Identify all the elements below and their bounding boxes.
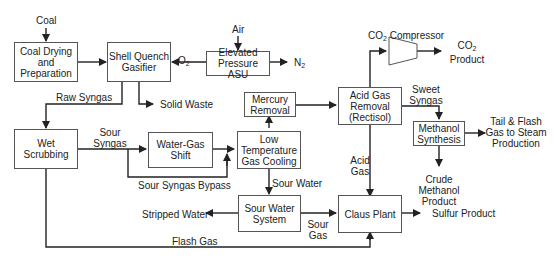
sour-gas-label: Sour Gas xyxy=(306,219,330,241)
bypass-label: Sour Syngas Bypass xyxy=(138,180,231,191)
sulfur-product-label: Sulfur Product xyxy=(432,208,495,219)
n2-label: N2 xyxy=(294,57,305,71)
acid-gas-label: Acid Gas xyxy=(350,155,370,177)
raw-syngas-label: Raw Syngas xyxy=(56,92,112,103)
gasifier-box: Shell Quench Gasifier xyxy=(107,42,171,82)
tail-flash-gas-label: Tail & Flash Gas to Steam Production xyxy=(480,116,552,149)
coal-label: Coal xyxy=(36,15,57,26)
crude-methanol-label: Crude Methanol Product xyxy=(404,174,474,207)
wet-scrubbing-box: Wet Scrubbing xyxy=(14,129,78,169)
sour-water-label: Sour Water xyxy=(272,178,322,189)
water-gas-shift-box: Water-Gas Shift xyxy=(148,132,213,168)
claus-plant-box: Claus Plant xyxy=(338,195,402,233)
air-label: Air xyxy=(232,24,244,35)
co2-product-label: CO2Product xyxy=(448,40,486,65)
o2-label: O2 xyxy=(178,55,190,69)
sour-water-system-box: Sour Water System xyxy=(238,195,301,232)
coal-drying-box: Coal Drying and Preparation xyxy=(14,42,78,82)
mercury-removal-box: Mercury Removal xyxy=(244,92,296,117)
methanol-synthesis-box: Methanol Synthesis xyxy=(413,121,465,146)
stripped-water-label: Stripped Water xyxy=(142,209,208,220)
asu-box: Elevated Pressure ASU xyxy=(206,51,270,76)
flash-gas-label: Flash Gas xyxy=(172,236,218,247)
sweet-syngas-label: Sweet Syngas xyxy=(406,84,446,106)
low-temp-gas-cooling-box: Low Temperature Gas Cooling xyxy=(237,131,301,169)
acid-gas-removal-box: Acid Gas Removal (Rectisol) xyxy=(338,87,402,125)
solid-waste-label: Solid Waste xyxy=(160,99,213,110)
sour-syngas-label: Sour Syngas xyxy=(90,127,130,149)
co2-compressor-label: CO2 Compressor xyxy=(368,30,444,44)
